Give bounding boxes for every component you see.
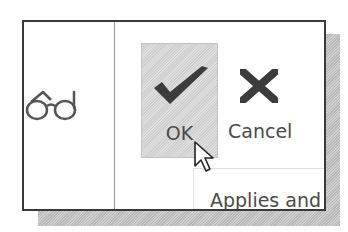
cancel-label: Cancel [228,120,292,142]
frame-shadow-right [324,34,340,226]
checkmark-icon [152,66,210,106]
frame-shadow-bottom [38,209,340,226]
cancel-button[interactable]: Cancel [222,58,302,148]
group-divider [114,22,115,209]
mouse-cursor-icon [193,140,217,174]
x-icon [240,69,278,103]
glasses-icon[interactable] [25,86,77,122]
ribbon-callout-frame: OK Cancel Applies and [22,20,326,211]
applies-section: Applies and [193,168,326,211]
applies-label: Applies and [210,189,321,211]
screenshot-stage: OK Cancel Applies and [0,0,348,232]
